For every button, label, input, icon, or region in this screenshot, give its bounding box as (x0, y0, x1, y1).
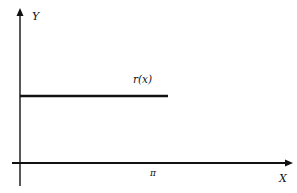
x-axis-arrow-icon (285, 160, 293, 167)
y-axis-label: Y (32, 10, 41, 23)
diagram-canvas: Y X r(x) π (0, 0, 297, 193)
r-x-label: r(x) (133, 73, 152, 85)
y-axis-arrow-icon (17, 8, 24, 16)
x-axis-label: X (278, 172, 288, 185)
pi-tick-label: π (149, 168, 157, 178)
x-axis (12, 160, 293, 167)
